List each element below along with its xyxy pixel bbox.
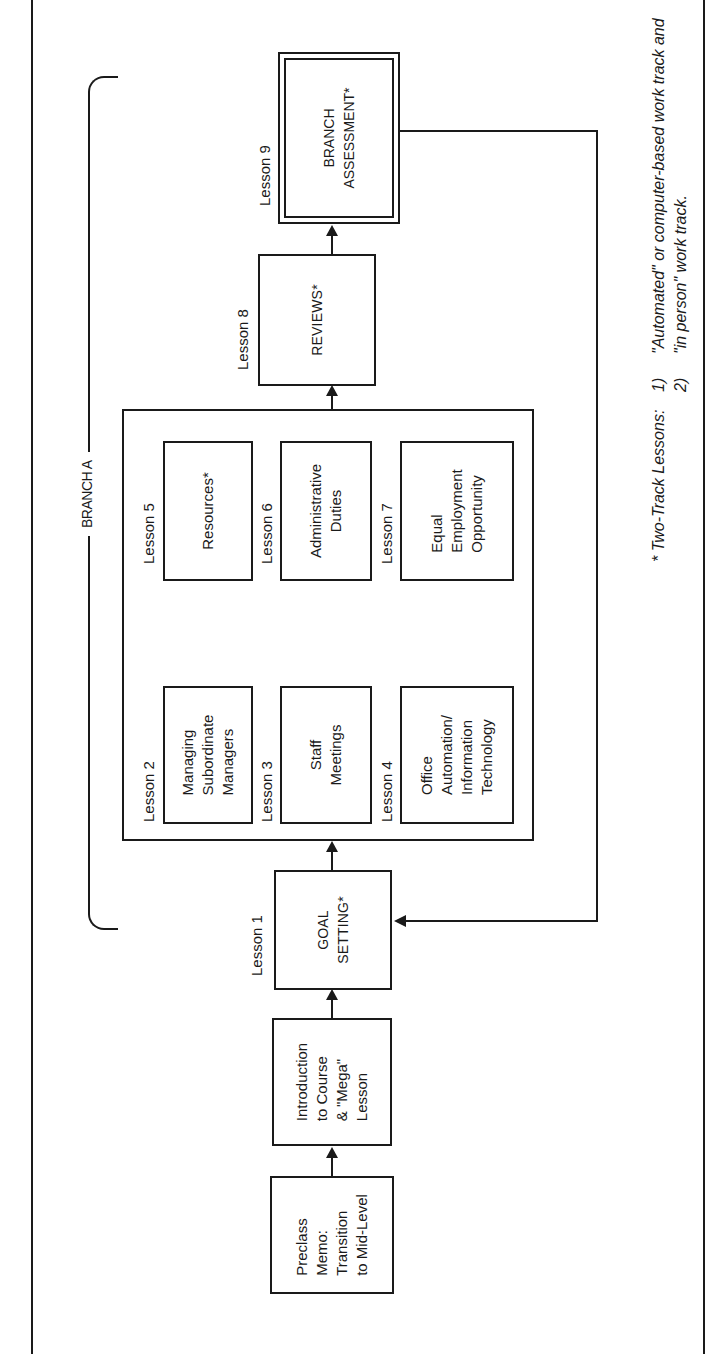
top-rule	[31, 0, 33, 1354]
diagram-stage: BRANCH A Preclass Memo: Transition to Mi…	[0, 0, 712, 1354]
lesson8-label: Lesson 8	[234, 309, 252, 370]
footnote-item-1-num: 1)	[648, 354, 670, 392]
node-intro: Introduction to Course & "Mega" Lesson	[272, 1018, 392, 1146]
node-lesson4-text: Office Automation/ Information Technolog…	[417, 715, 497, 795]
node-preclass-text: Preclass Memo: Transition to Mid-Level	[292, 1194, 372, 1276]
node-lesson3: Staff Meetings	[280, 686, 372, 824]
edge-loop-horizontal	[596, 130, 598, 922]
lesson6-label: Lesson 6	[258, 503, 276, 564]
node-lesson8: REVIEWS*	[258, 254, 376, 386]
node-lesson6-text: Administrative Duties	[306, 464, 346, 558]
node-lesson8-text: REVIEWS*	[307, 284, 327, 356]
node-lesson2: Managing Subordinate Managers	[163, 686, 253, 824]
lesson3-label: Lesson 3	[258, 761, 276, 822]
lesson2-label: Lesson 2	[140, 761, 158, 822]
node-lesson6: Administrative Duties	[280, 441, 372, 581]
node-lesson5-text: Resources*	[198, 472, 218, 550]
node-lesson7: Equal Employment Opportunity	[400, 441, 514, 581]
node-intro-text: Introduction to Course & "Mega" Lesson	[292, 1043, 372, 1121]
node-lesson5: Resources*	[163, 441, 253, 581]
arrow-icon	[326, 225, 338, 236]
bottom-rule	[703, 0, 705, 1354]
arrow-icon	[326, 841, 338, 852]
node-lesson9: BRANCH ASSESSMENT*	[278, 52, 400, 224]
node-lesson3-text: Staff Meetings	[306, 725, 346, 786]
edge-preclass-intro	[331, 1156, 333, 1176]
lesson4-label: Lesson 4	[378, 761, 396, 822]
arrow-icon	[326, 385, 338, 396]
footnote-marker: * Two-Track Lessons:	[648, 392, 670, 562]
node-lesson1: GOAL SETTING*	[274, 870, 392, 990]
lesson7-label: Lesson 7	[378, 503, 396, 564]
footnote-item-2-text: "in person" work track.	[670, 195, 692, 354]
footnote-item-1-text: "Automated" or computer-based work track…	[648, 18, 670, 354]
arrow-icon	[326, 989, 338, 1000]
lesson9-label: Lesson 9	[256, 145, 274, 206]
footnote-item-2-num: 2)	[670, 354, 692, 392]
node-lesson7-text: Equal Employment Opportunity	[427, 469, 487, 552]
lesson5-label: Lesson 5	[140, 503, 158, 564]
node-lesson9-text: BRANCH ASSESSMENT*	[319, 87, 359, 188]
footnote: * Two-Track Lessons: 1) "Automated" or c…	[648, 18, 692, 562]
node-lesson4: Office Automation/ Information Technolog…	[400, 686, 514, 824]
edge-loop-up	[406, 920, 598, 922]
branch-label: BRANCH A	[79, 452, 95, 536]
node-lesson1-text: GOAL SETTING*	[313, 896, 353, 964]
node-lesson2-text: Managing Subordinate Managers	[178, 715, 238, 796]
arrow-up-icon	[394, 915, 406, 927]
edge-lesson1-group	[331, 850, 333, 870]
arrow-icon	[326, 1147, 338, 1158]
node-preclass: Preclass Memo: Transition to Mid-Level	[270, 1176, 394, 1294]
edge-loop-down	[400, 130, 598, 132]
edge-intro-lesson1	[331, 998, 333, 1018]
lesson1-label: Lesson 1	[248, 915, 266, 976]
